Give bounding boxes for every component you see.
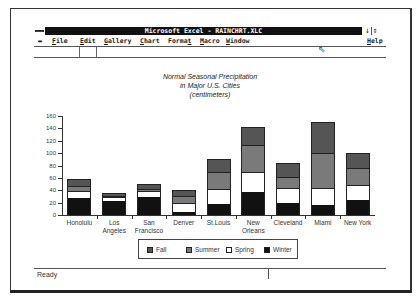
menu-macro[interactable]: Macro xyxy=(200,36,220,46)
segment-winter xyxy=(208,204,230,215)
segment-spring xyxy=(68,191,90,198)
y-axis xyxy=(62,116,63,215)
spring-swatch-icon xyxy=(226,247,232,253)
bar-new-york[interactable] xyxy=(346,153,370,215)
y-tick-label: 0 xyxy=(36,212,56,218)
legend-item-spring: Spring xyxy=(226,246,254,253)
status-bar-line xyxy=(34,268,386,269)
y-tick-label: 80 xyxy=(36,163,56,169)
y-tick-label: 120 xyxy=(36,138,56,144)
segment-fall xyxy=(103,193,125,196)
segment-winter xyxy=(277,203,299,215)
segment-winter xyxy=(347,200,369,215)
y-tick-label: 160 xyxy=(36,113,56,119)
segment-spring xyxy=(208,189,230,204)
bar-honolulu[interactable] xyxy=(67,179,91,215)
menu-format[interactable]: Format xyxy=(168,36,192,46)
window-title: Microsoft Excel - RAINCHRT.XLC xyxy=(145,27,262,35)
status-text: Ready xyxy=(37,271,57,278)
segment-spring xyxy=(312,188,334,205)
segment-summer xyxy=(208,172,230,189)
menu-help[interactable]: Help xyxy=(367,36,383,46)
menu-edit[interactable]: Edit xyxy=(80,36,96,46)
y-tick xyxy=(58,166,62,167)
segment-fall xyxy=(312,122,334,153)
fall-swatch-icon xyxy=(147,247,153,253)
y-tick xyxy=(58,190,62,191)
title-bar[interactable]: Microsoft Excel - RAINCHRT.XLC xyxy=(45,27,362,35)
y-tick-label: 40 xyxy=(36,187,56,193)
segment-fall xyxy=(173,190,195,196)
segment-winter xyxy=(103,201,125,215)
y-tick xyxy=(58,215,62,216)
summer-swatch-icon xyxy=(186,247,192,253)
legend-item-fall: Fall xyxy=(147,246,166,253)
chart-title: Normal Seasonal Precipitation in Major U… xyxy=(130,72,290,99)
menu-chart[interactable]: Chart xyxy=(140,36,160,46)
menu-bar: ▬ File Edit Gallery Chart Format Macro W… xyxy=(34,36,386,47)
segment-summer xyxy=(103,196,125,197)
segment-summer xyxy=(312,153,334,188)
menu-file[interactable]: File xyxy=(52,36,68,46)
bar-san-francisco[interactable] xyxy=(137,184,161,215)
segment-winter xyxy=(68,198,90,215)
mouse-pointer-icon: ⇖ xyxy=(318,44,326,54)
chart-title-line: (centimeters) xyxy=(130,90,290,99)
legend-item-summer: Summer xyxy=(186,246,220,253)
control-menu-box[interactable] xyxy=(34,27,45,35)
segment-summer xyxy=(138,189,160,191)
formula-divider xyxy=(79,47,80,57)
segment-winter xyxy=(138,197,160,215)
segment-fall xyxy=(242,127,264,145)
chart-title-line: in Major U.S. Cities xyxy=(130,81,290,90)
y-tick xyxy=(58,178,62,179)
segment-spring xyxy=(103,197,125,201)
segment-spring xyxy=(242,172,264,192)
bar-cleveland[interactable] xyxy=(276,163,300,215)
bar-los-angeles[interactable] xyxy=(102,193,126,215)
segment-fall xyxy=(68,179,90,186)
window-buttons: ↓⇕ xyxy=(364,26,379,36)
bar-st-louis[interactable] xyxy=(207,159,231,215)
formula-divider xyxy=(96,47,97,57)
restore-icon[interactable]: ⇕ xyxy=(372,26,379,36)
menu-window[interactable]: Window xyxy=(226,36,250,46)
bar-new-orleans[interactable] xyxy=(241,127,265,215)
y-tick-label: 60 xyxy=(36,175,56,181)
segment-fall xyxy=(347,153,369,168)
minimize-icon[interactable]: ↓ xyxy=(364,26,371,36)
segment-summer xyxy=(68,186,90,191)
segment-spring xyxy=(173,203,195,212)
formula-bar[interactable] xyxy=(34,47,386,58)
status-divider xyxy=(268,268,269,279)
segment-winter xyxy=(312,205,334,215)
chart-legend[interactable]: Fall Summer Spring Winter xyxy=(138,239,298,259)
segment-winter xyxy=(242,192,264,215)
segment-summer xyxy=(173,196,195,203)
winter-swatch-icon xyxy=(264,247,270,253)
bar-miami[interactable] xyxy=(311,122,335,215)
y-tick-label: 100 xyxy=(36,150,56,156)
bar-denver[interactable] xyxy=(172,190,196,215)
legend-item-winter: Winter xyxy=(264,246,292,253)
y-tick xyxy=(58,116,62,117)
x-tick-label: New York xyxy=(338,219,378,227)
segment-summer xyxy=(242,145,264,172)
segment-fall xyxy=(208,159,230,172)
segment-summer xyxy=(277,177,299,188)
y-tick xyxy=(58,128,62,129)
segment-winter xyxy=(173,212,195,215)
x-axis xyxy=(62,215,375,216)
segment-fall xyxy=(277,163,299,177)
segment-fall xyxy=(138,184,160,189)
y-tick xyxy=(58,203,62,204)
y-tick xyxy=(58,141,62,142)
y-tick xyxy=(58,153,62,154)
segment-spring xyxy=(277,188,299,203)
segment-spring xyxy=(138,191,160,197)
menu-gallery[interactable]: Gallery xyxy=(104,36,131,46)
y-tick-label: 20 xyxy=(36,200,56,206)
chart-title-line: Normal Seasonal Precipitation xyxy=(130,72,290,81)
document-control-menu-icon[interactable]: ▬ xyxy=(38,36,42,46)
y-tick-label: 140 xyxy=(36,125,56,131)
